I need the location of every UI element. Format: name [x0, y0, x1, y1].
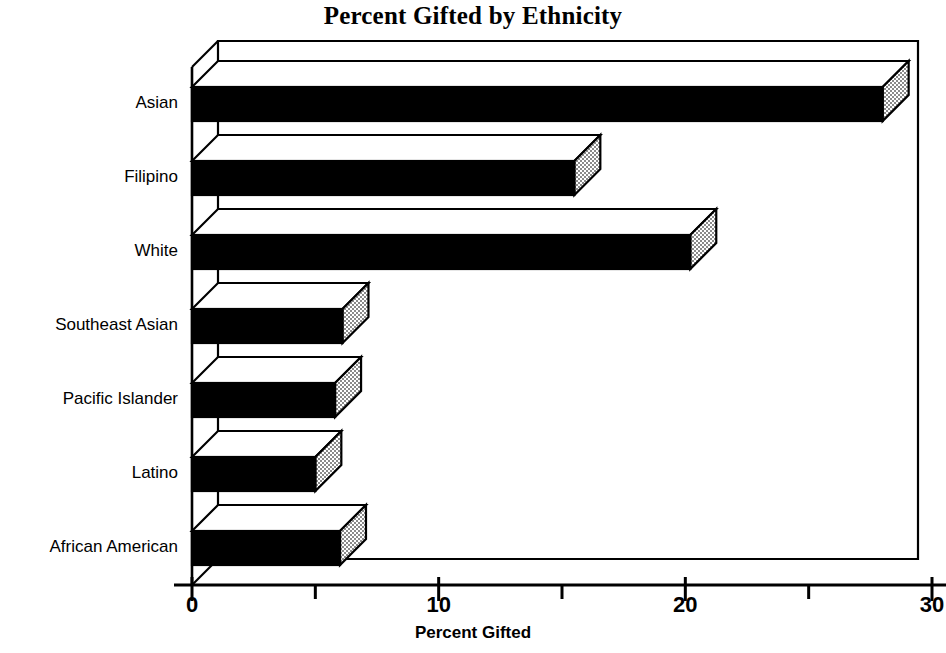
- category-label-row: Latino: [0, 464, 178, 484]
- bar-front-face: [192, 235, 690, 269]
- bar-front-face: [192, 457, 315, 491]
- category-label: White: [135, 242, 178, 259]
- category-label: Filipino: [124, 168, 178, 185]
- x-tick-label: 30: [902, 592, 946, 618]
- bar-front-face: [192, 309, 342, 343]
- category-label: African American: [50, 538, 179, 555]
- category-label-row: African American: [0, 538, 178, 558]
- bar-top-face: [192, 357, 361, 383]
- x-tick-label: 10: [409, 592, 469, 618]
- x-tick-label: 20: [655, 592, 715, 618]
- category-label: Asian: [135, 94, 178, 111]
- bar-pacific-islander: [192, 357, 361, 417]
- category-label: Southeast Asian: [55, 316, 178, 333]
- bar-top-face: [192, 61, 909, 87]
- category-label-row: Asian: [0, 94, 178, 114]
- category-label-row: White: [0, 242, 178, 262]
- bar-front-face: [192, 161, 574, 195]
- bar-front-face: [192, 87, 883, 121]
- category-label-row: Pacific Islander: [0, 390, 178, 410]
- bar-asian: [192, 61, 909, 121]
- bar-white: [192, 209, 716, 269]
- category-label: Latino: [132, 464, 178, 481]
- x-tick-label: 0: [162, 592, 222, 618]
- bar-front-face: [192, 531, 340, 565]
- x-axis-title: Percent Gifted: [0, 623, 946, 643]
- plot-left-wall-edge: [192, 41, 218, 67]
- bar-african-american: [192, 505, 366, 565]
- axis-group: [174, 577, 946, 601]
- bar-southeast-asian: [192, 283, 368, 343]
- bar-top-face: [192, 209, 716, 235]
- bar-latino: [192, 431, 341, 491]
- category-label: Pacific Islander: [63, 390, 178, 407]
- bar-filipino: [192, 135, 600, 195]
- category-label-row: Southeast Asian: [0, 316, 178, 336]
- bar-front-face: [192, 383, 335, 417]
- bar-top-face: [192, 135, 600, 161]
- bar-top-face: [192, 283, 368, 309]
- bar-top-face: [192, 505, 366, 531]
- bar-chart: Percent Gifted by Ethnicity AsianFilipin…: [0, 0, 946, 653]
- category-label-row: Filipino: [0, 168, 178, 188]
